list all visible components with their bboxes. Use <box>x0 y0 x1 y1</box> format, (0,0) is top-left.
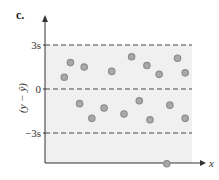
y-axis-arrow-icon <box>42 15 48 22</box>
data-point <box>182 115 188 121</box>
data-point <box>101 105 107 111</box>
data-point <box>144 62 150 68</box>
x-axis-label: x <box>208 157 214 169</box>
x-axis-arrow-icon <box>200 160 206 166</box>
data-point <box>81 64 87 70</box>
residual-scatter-plot: x3s0−3s <box>0 0 219 180</box>
data-point <box>147 117 153 123</box>
y-tick-label: 0 <box>36 83 42 95</box>
data-point <box>164 161 170 167</box>
y-tick-label: 3s <box>31 39 41 51</box>
data-point <box>67 59 73 65</box>
data-point <box>182 70 188 76</box>
data-point <box>156 71 162 77</box>
data-point <box>136 98 142 104</box>
y-tick-label: −3s <box>25 127 41 139</box>
data-point <box>89 115 95 121</box>
data-point <box>109 68 115 74</box>
data-point <box>174 55 180 61</box>
data-point <box>61 74 67 80</box>
data-point <box>167 102 173 108</box>
data-point <box>121 111 127 117</box>
data-point <box>76 100 82 106</box>
data-point <box>128 54 134 60</box>
